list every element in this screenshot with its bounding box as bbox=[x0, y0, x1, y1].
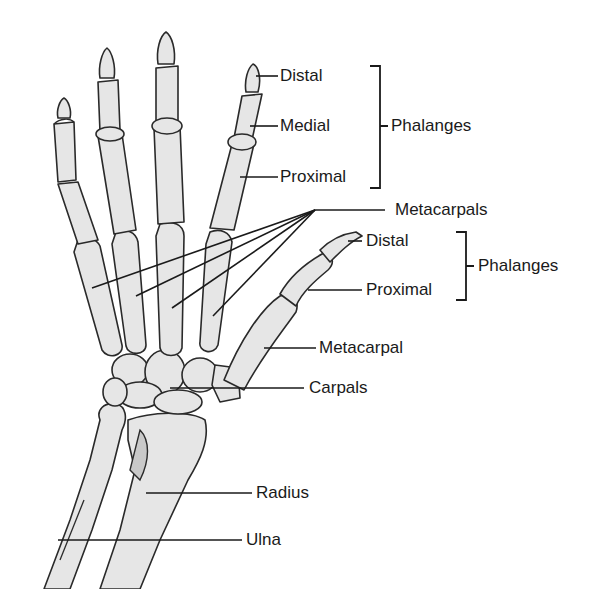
middle-finger-phalanges bbox=[152, 32, 184, 224]
ring-finger-phalanges bbox=[96, 48, 136, 234]
index-finger-phalanges bbox=[210, 64, 262, 230]
label-finger-distal: Distal bbox=[280, 66, 323, 86]
thumb-bones bbox=[224, 232, 362, 390]
finger-metacarpals bbox=[74, 223, 232, 356]
label-finger-proximal: Proximal bbox=[280, 167, 346, 187]
label-thumb-proximal: Proximal bbox=[366, 280, 432, 300]
label-ulna: Ulna bbox=[246, 530, 281, 550]
label-finger-phalanges: Phalanges bbox=[391, 116, 471, 136]
label-radius: Radius bbox=[256, 483, 309, 503]
label-finger-medial: Medial bbox=[280, 116, 330, 136]
label-thumb-phalanges: Phalanges bbox=[478, 256, 558, 276]
label-thumb-distal: Distal bbox=[366, 231, 409, 251]
label-carpals: Carpals bbox=[309, 378, 368, 398]
bracket-thumb-phalanges bbox=[456, 232, 474, 300]
hand-skeleton-diagram: Distal Medial Proximal Phalanges Metacar… bbox=[0, 0, 600, 589]
label-metacarpals: Metacarpals bbox=[395, 200, 488, 220]
carpal-bones bbox=[103, 350, 240, 414]
bracket-finger-phalanges bbox=[370, 66, 388, 188]
little-finger-phalanges bbox=[54, 98, 98, 244]
label-thumb-metacarpal: Metacarpal bbox=[319, 338, 403, 358]
